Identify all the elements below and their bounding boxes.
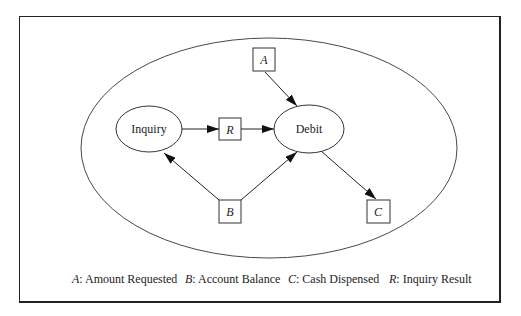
legend-text-r: Inquiry Result — [400, 272, 472, 286]
node-inquiry: Inquiry — [116, 106, 182, 152]
node-debit: Debit — [274, 105, 344, 153]
legend-key-c: C — [288, 272, 296, 286]
node-b: B — [219, 200, 241, 223]
legend-text-b: Account Balance — [196, 272, 281, 286]
legend-item-r: R: Inquiry Result — [389, 272, 472, 287]
edge-b-to-debit — [241, 152, 297, 200]
node-inquiry-label: Inquiry — [131, 122, 166, 136]
legend-item-a: A: Amount Requested — [72, 272, 177, 287]
node-r: R — [219, 118, 241, 140]
legend-text-c: Cash Dispensed — [299, 272, 379, 286]
diagram-canvas: Inquiry Debit A R B C — [0, 0, 521, 316]
legend: A: Amount Requested B: Account Balance C… — [0, 272, 521, 290]
node-b-label: B — [226, 205, 234, 219]
edge-a-to-debit — [265, 72, 297, 106]
legend-item-b: B: Account Balance — [185, 272, 280, 287]
legend-text-a: Amount Requested — [83, 272, 178, 286]
edge-debit-to-c — [321, 151, 376, 199]
node-c: C — [367, 200, 390, 223]
edge-b-to-inquiry — [164, 153, 219, 200]
node-c-label: C — [374, 205, 383, 219]
legend-item-c: C: Cash Dispensed — [288, 272, 379, 287]
node-a: A — [253, 48, 275, 71]
node-debit-label: Debit — [296, 122, 323, 136]
node-a-label: A — [259, 53, 268, 67]
node-r-label: R — [225, 123, 234, 137]
